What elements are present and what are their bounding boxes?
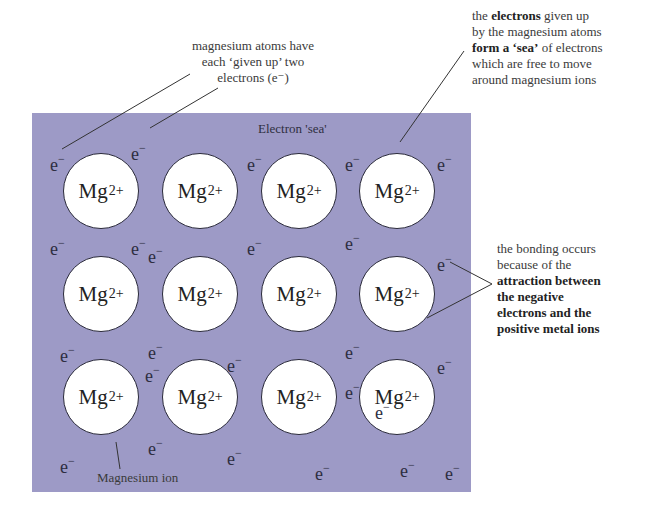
annotation-attraction: the bonding occursbecause of theattracti… <box>497 241 601 337</box>
annotation-given-up-electrons: magnesium atoms haveeach ‘given up’ twoe… <box>168 38 338 86</box>
annotation-magnesium-ion: Magnesium ion <box>97 470 178 486</box>
annotation-electron-sea: the electrons given upby the magnesium a… <box>472 8 603 88</box>
